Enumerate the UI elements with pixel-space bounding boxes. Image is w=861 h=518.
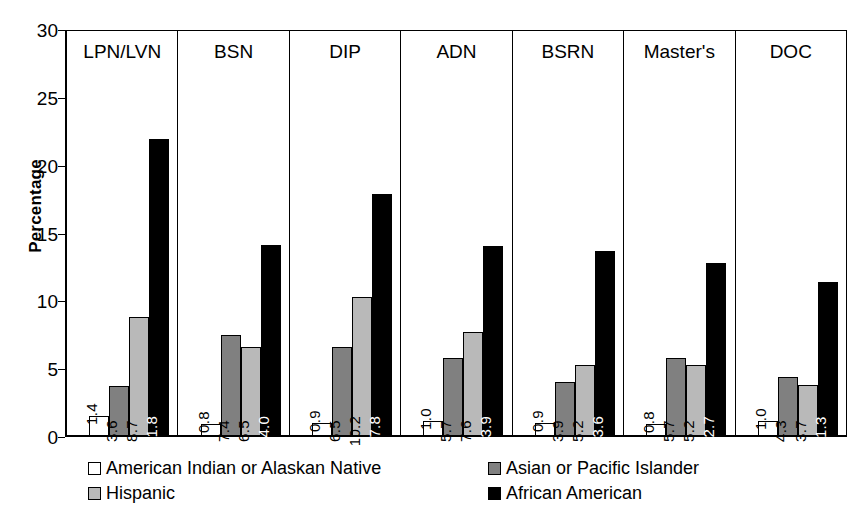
- bar-group: 1.0 5.7 7.6 13.9: [401, 31, 511, 435]
- bar-value-label: 5.2: [681, 420, 696, 442]
- panel-doc: DOC 1.0 4.3 3.7 11.3: [736, 31, 846, 435]
- bar-value-label: 0.9: [307, 410, 322, 432]
- bar-value-label: 12.7: [701, 416, 716, 446]
- bar-value-label: 6.5: [327, 420, 342, 442]
- legend-item-african-american: African American: [488, 483, 642, 504]
- bar-value-label: 17.8: [367, 416, 382, 446]
- bar-value-label: 0.8: [641, 411, 656, 433]
- y-tick-30: 30: [12, 21, 58, 40]
- bar-group: 0.8 7.4 6.5 14.0: [178, 31, 288, 435]
- y-tickmark-10: [58, 301, 65, 302]
- bar-value-label: 10.2: [347, 416, 362, 446]
- bar-value-label: 6.5: [236, 420, 251, 442]
- y-tickmark-0: [58, 437, 65, 438]
- bar-value-label: 1.0: [418, 409, 433, 431]
- bar-hispanic: 10.2: [352, 297, 372, 435]
- bar-african-american: 21.8: [149, 139, 169, 435]
- y-tick-10: 10: [12, 292, 58, 311]
- panel-masters: Master's 0.8 5.7 5.2 12.7: [624, 31, 735, 435]
- y-tick-0: 0: [12, 428, 58, 447]
- bar-value-label: 0.9: [530, 410, 545, 432]
- y-tickmark-5: [58, 369, 65, 370]
- plot-area: LPN/LVN 1.4 3.6 8.7 21.8 BSN 0.: [65, 30, 847, 437]
- white-swatch-icon: [88, 462, 101, 475]
- bar-value-label: 5.7: [661, 420, 676, 442]
- y-tick-25: 25: [12, 88, 58, 107]
- bar-value-label: 8.7: [124, 420, 139, 442]
- bar-value-label: 5.2: [570, 420, 585, 442]
- bar-value-label: 3.7: [793, 420, 808, 442]
- bar-african-american: 13.9: [483, 246, 503, 435]
- bar-value-label: 13.9: [478, 416, 493, 446]
- panel-lpn-lvn: LPN/LVN 1.4 3.6 8.7 21.8: [67, 31, 178, 435]
- bar-value-label: 0.8: [196, 411, 211, 433]
- y-tickmark-15: [58, 234, 65, 235]
- bar-african-american: 13.6: [595, 251, 615, 436]
- y-tickmark-30: [58, 30, 65, 31]
- chart-root: Percentage 30 25 20 15 10 5 0 LPN/LVN 1.…: [0, 0, 861, 518]
- legend-label: Asian or Pacific Islander: [506, 458, 699, 479]
- y-tickmark-20: [58, 166, 65, 167]
- y-tickmark-25: [58, 98, 65, 99]
- bar-value-label: 21.8: [144, 416, 159, 446]
- bar-group: 0.9 3.9 5.2 13.6: [513, 31, 623, 435]
- dark-gray-swatch-icon: [488, 462, 501, 475]
- legend-item-american-indian: American Indian or Alaskan Native: [88, 458, 381, 479]
- legend-item-asian-pacific: Asian or Pacific Islander: [488, 458, 699, 479]
- y-tick-15: 15: [12, 224, 58, 243]
- bar-group: 1.4 3.6 8.7 21.8: [67, 31, 177, 435]
- panel-adn: ADN 1.0 5.7 7.6 13.9: [401, 31, 512, 435]
- panel-dip: DIP 0.9 6.5 10.2 17.8: [290, 31, 401, 435]
- bar-value-label: 11.3: [813, 416, 828, 445]
- chart-legend: American Indian or Alaskan Native Asian …: [88, 458, 848, 510]
- bar-value-label: 5.7: [438, 420, 453, 442]
- bar-value-label: 13.6: [590, 416, 605, 446]
- bar-value-label: 7.6: [458, 420, 473, 442]
- bar-value-label: 14.0: [256, 416, 271, 446]
- bar-value-label: 7.4: [216, 420, 231, 442]
- bar-group: 0.8 5.7 5.2 12.7: [624, 31, 734, 435]
- legend-item-hispanic: Hispanic: [88, 483, 175, 504]
- panel-bsn: BSN 0.8 7.4 6.5 14.0: [178, 31, 289, 435]
- legend-label: American Indian or Alaskan Native: [106, 458, 381, 479]
- bar-group: 0.9 6.5 10.2 17.8: [290, 31, 400, 435]
- bar-value-label: 4.3: [773, 420, 788, 442]
- bar-african-american: 11.3: [818, 282, 838, 435]
- bar-value-label: 1.4: [84, 403, 99, 425]
- legend-label: African American: [506, 483, 642, 504]
- y-tick-5: 5: [12, 360, 58, 379]
- bar-african-american: 14.0: [261, 245, 281, 435]
- panel-bsrn: BSRN 0.9 3.9 5.2 13.6: [513, 31, 624, 435]
- y-axis-tick-labels: 30 25 20 15 10 5 0: [10, 0, 58, 518]
- bar-value-label: 1.0: [753, 409, 768, 431]
- light-gray-swatch-icon: [88, 487, 101, 500]
- bar-african-american: 12.7: [706, 263, 726, 435]
- bar-african-american: 17.8: [372, 194, 392, 436]
- bar-value-label: 3.9: [550, 420, 565, 442]
- legend-label: Hispanic: [106, 483, 175, 504]
- bar-group: 1.0 4.3 3.7 11.3: [736, 31, 846, 435]
- y-tick-20: 20: [12, 156, 58, 175]
- black-swatch-icon: [488, 487, 501, 500]
- bar-value-label: 3.6: [104, 420, 119, 442]
